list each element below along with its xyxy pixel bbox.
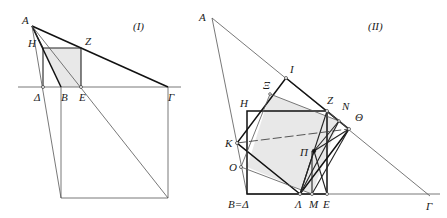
point-pi bbox=[312, 149, 316, 153]
geometry-diagram: A H Z Δ B E Γ (I) bbox=[0, 0, 447, 218]
label-e-1: E bbox=[78, 91, 86, 103]
label-h-2: H bbox=[239, 97, 249, 109]
label-h-1: H bbox=[27, 37, 37, 49]
label-o: O bbox=[229, 161, 237, 173]
label-gamma-1: Γ bbox=[167, 91, 175, 103]
label-z-1: Z bbox=[85, 35, 92, 47]
point-xi bbox=[269, 93, 272, 96]
label-delta-1: Δ bbox=[33, 91, 40, 103]
point-theta bbox=[348, 128, 351, 131]
bottom-square-1 bbox=[61, 87, 168, 198]
point-e-1 bbox=[80, 86, 83, 89]
label-pi: Π bbox=[299, 146, 309, 158]
label-a-1: A bbox=[21, 14, 29, 26]
label-i: I bbox=[289, 63, 295, 75]
point-n bbox=[338, 120, 341, 123]
label-xi: Ξ bbox=[263, 79, 270, 91]
label-lambda: Λ bbox=[294, 198, 302, 210]
point-lambda bbox=[299, 193, 302, 196]
point-m bbox=[311, 193, 314, 196]
label-b-1: B bbox=[61, 91, 68, 103]
label-a-2: A bbox=[198, 11, 206, 23]
point-delta-1 bbox=[42, 86, 45, 89]
point-o bbox=[240, 166, 243, 169]
point-z-2 bbox=[326, 110, 329, 113]
label-k: K bbox=[224, 137, 233, 149]
point-k bbox=[236, 142, 239, 145]
diagram-canvas: A H Z Δ B E Γ (I) bbox=[0, 0, 447, 218]
label-b-delta: B=Δ bbox=[228, 198, 249, 210]
label-z-2: Z bbox=[327, 94, 334, 106]
label-theta: Θ bbox=[355, 111, 363, 123]
label-n: N bbox=[341, 100, 350, 112]
label-e-2: E bbox=[322, 198, 330, 210]
point-e-2 bbox=[326, 193, 329, 196]
figure-title-1: (I) bbox=[133, 20, 144, 33]
diagonal-a-e-1 bbox=[32, 26, 168, 198]
label-m: M bbox=[308, 198, 319, 210]
point-i bbox=[285, 77, 288, 80]
figure-title-2: (II) bbox=[368, 20, 383, 33]
figure-1: A H Z Δ B E Γ (I) bbox=[18, 14, 181, 198]
figure-2: A I Ξ H Z N Θ K Π O B=Δ Λ M E Γ (II) bbox=[198, 11, 440, 212]
label-gamma-2: Γ bbox=[425, 200, 433, 212]
